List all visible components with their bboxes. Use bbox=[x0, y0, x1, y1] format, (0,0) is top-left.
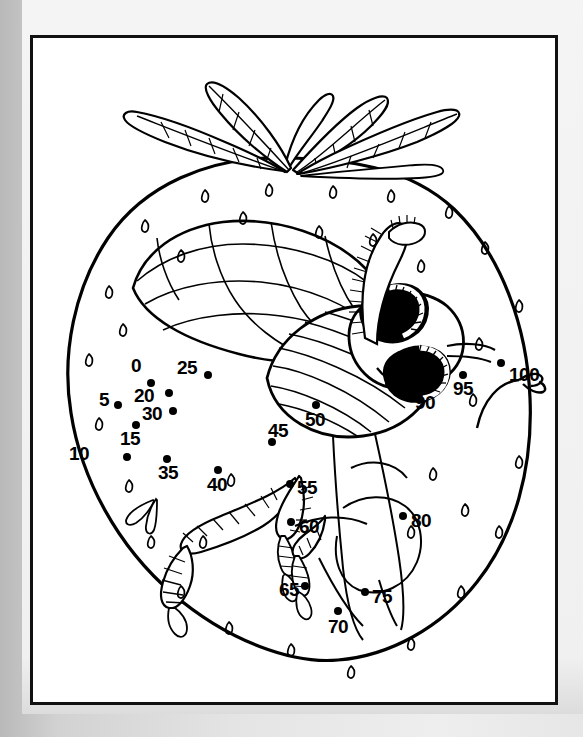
dot-number-label: 50 bbox=[305, 410, 325, 429]
dot-number-label: 65 bbox=[279, 580, 299, 599]
dot-number-label: 15 bbox=[120, 429, 140, 448]
dot-marker bbox=[334, 607, 342, 615]
dot-marker bbox=[301, 582, 309, 590]
dot-number-label: 30 bbox=[142, 404, 162, 423]
artwork-frame: 0510152025303540455055606570758085909510… bbox=[30, 35, 558, 705]
dot-number-label: 55 bbox=[297, 478, 317, 497]
dot-marker bbox=[399, 512, 407, 520]
dot-marker bbox=[287, 518, 295, 526]
dot-marker bbox=[123, 453, 131, 461]
dot-number-label: 75 bbox=[372, 587, 392, 606]
dot-number-label: 100 bbox=[509, 365, 539, 384]
strawberry-leaves bbox=[124, 82, 460, 178]
connect-the-dots-illustration bbox=[33, 38, 555, 702]
coloring-page-scan: 0510152025303540455055606570758085909510… bbox=[0, 0, 583, 737]
dot-number-label: 35 bbox=[158, 463, 178, 482]
dot-marker bbox=[169, 407, 177, 415]
dot-number-label: 70 bbox=[328, 617, 348, 636]
dot-number-label: 90 bbox=[415, 393, 435, 412]
dot-marker bbox=[165, 389, 173, 397]
dot-marker bbox=[286, 480, 294, 488]
dot-marker bbox=[312, 401, 320, 409]
dot-marker bbox=[114, 401, 122, 409]
dot-marker bbox=[204, 371, 212, 379]
dot-number-label: 5 bbox=[99, 390, 109, 409]
dot-marker bbox=[214, 466, 222, 474]
dot-marker bbox=[497, 359, 505, 367]
dot-number-label: 10 bbox=[69, 444, 89, 463]
dot-number-label: 80 bbox=[411, 511, 431, 530]
dot-marker bbox=[361, 588, 369, 596]
dot-number-label: 0 bbox=[131, 356, 141, 375]
dot-number-label: 45 bbox=[268, 421, 288, 440]
dot-number-label: 95 bbox=[453, 379, 473, 398]
dot-marker bbox=[385, 379, 393, 387]
dot-number-label: 60 bbox=[299, 517, 319, 536]
dot-number-label: 40 bbox=[207, 475, 227, 494]
dot-number-label: 25 bbox=[177, 358, 197, 377]
